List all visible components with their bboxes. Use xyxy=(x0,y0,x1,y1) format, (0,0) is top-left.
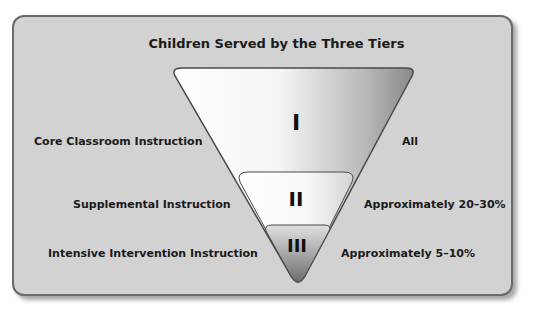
tier-2-numeral: II xyxy=(289,187,304,211)
tier-3-instruction-label: Intensive Intervention Instruction xyxy=(48,247,258,260)
tier-3-numeral: III xyxy=(287,235,307,256)
tier-2-instruction-label: Supplemental Instruction xyxy=(73,198,231,211)
tier-2-population-label: Approximately 20–30% xyxy=(364,198,506,211)
tier-funnel: I II III xyxy=(0,0,553,313)
tier-1-instruction-label: Core Classroom Instruction xyxy=(34,135,202,148)
tier-3-population-label: Approximately 5–10% xyxy=(341,247,475,260)
tier-1-population-label: All xyxy=(402,135,418,148)
tier-1-numeral: I xyxy=(292,110,300,135)
